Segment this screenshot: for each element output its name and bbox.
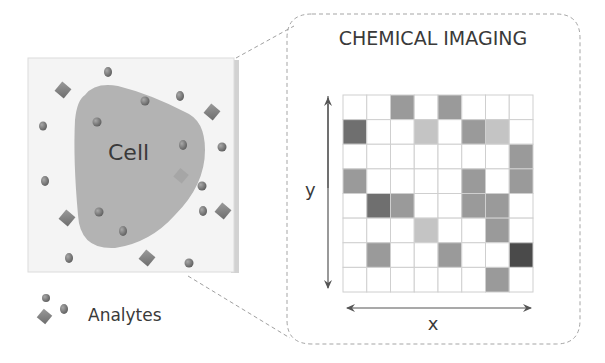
grid-cell <box>486 120 510 145</box>
grid-cell <box>414 243 438 268</box>
grid-cell <box>509 194 533 219</box>
grid-cell <box>486 218 510 243</box>
grid-cell <box>367 267 391 292</box>
grid-cell <box>343 243 367 268</box>
grid-cell <box>343 218 367 243</box>
grid-cell <box>391 169 415 194</box>
chemical-imaging-diagram: Cell <box>0 0 605 363</box>
grid-cell <box>414 169 438 194</box>
grid-cell <box>486 194 510 219</box>
grid-cell <box>367 144 391 169</box>
grid-cell <box>462 267 486 292</box>
legend-label: Analytes <box>88 305 162 325</box>
grid-cell <box>438 120 462 145</box>
grid-cell <box>509 243 533 268</box>
grid-cell <box>343 194 367 219</box>
legend-diamond-icon <box>37 309 52 324</box>
grid-cell <box>367 194 391 219</box>
grid-cell <box>462 169 486 194</box>
grid-cell <box>391 194 415 219</box>
chemical-image-grid <box>343 95 533 292</box>
grid-cell <box>486 144 510 169</box>
grid-cell <box>486 95 510 120</box>
grid-cell <box>509 218 533 243</box>
grid-cell <box>391 243 415 268</box>
cell-label: Cell <box>108 140 149 165</box>
grid-cell <box>486 267 510 292</box>
grid-cell <box>343 267 367 292</box>
grid-cell <box>438 243 462 268</box>
grid-cell <box>486 243 510 268</box>
grid-cell <box>438 95 462 120</box>
grid-cell <box>414 267 438 292</box>
y-axis: y <box>305 96 328 288</box>
grid-cell <box>509 95 533 120</box>
grid-cell <box>509 144 533 169</box>
legend: Analytes <box>37 294 162 325</box>
legend-dot-icon <box>42 294 50 302</box>
grid-cell <box>462 243 486 268</box>
grid-cell <box>391 267 415 292</box>
grid-cell <box>462 120 486 145</box>
grid-cell <box>367 120 391 145</box>
grid-cell <box>343 120 367 145</box>
grid-cell <box>391 120 415 145</box>
x-axis-label: x <box>428 313 439 334</box>
grid-cell <box>414 144 438 169</box>
grid-cell <box>509 267 533 292</box>
diagram-title: CHEMICAL IMAGING <box>339 27 527 49</box>
grid-cell <box>343 169 367 194</box>
grid-cell <box>509 169 533 194</box>
grid-cell <box>367 95 391 120</box>
grid-cell <box>343 95 367 120</box>
grid-cell <box>367 243 391 268</box>
grid-cell <box>438 144 462 169</box>
grid-cell <box>367 218 391 243</box>
grid-cell <box>438 169 462 194</box>
grid-cell <box>438 218 462 243</box>
grid-cell <box>391 218 415 243</box>
grid-cell <box>414 194 438 219</box>
x-axis: x <box>347 308 531 334</box>
grid-cell <box>438 194 462 219</box>
grid-cell <box>462 218 486 243</box>
grid-cell <box>462 144 486 169</box>
grid-cell <box>438 267 462 292</box>
grid-cell <box>367 169 391 194</box>
grid-cell <box>509 120 533 145</box>
grid-cell <box>414 120 438 145</box>
grid-cell <box>486 169 510 194</box>
grid-cell <box>343 144 367 169</box>
legend-dot-icon <box>60 304 68 314</box>
grid-cell <box>414 95 438 120</box>
grid-cell <box>391 144 415 169</box>
y-axis-label: y <box>305 179 316 200</box>
grid-cell <box>462 95 486 120</box>
grid-cell <box>414 218 438 243</box>
grid-cell <box>462 194 486 219</box>
grid-cell <box>391 95 415 120</box>
